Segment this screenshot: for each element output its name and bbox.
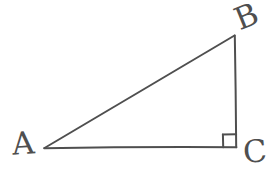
triangle-side-ac-horizontal-leg xyxy=(44,147,236,148)
vertex-label-c: C xyxy=(242,135,268,168)
diagram-canvas: A B C xyxy=(0,0,279,172)
triangle-side-ab-hypotenuse xyxy=(45,36,235,149)
triangle-side-bc-vertical-leg xyxy=(235,36,236,148)
right-angle-marker-icon xyxy=(223,134,236,147)
vertex-label-a: A xyxy=(11,127,35,159)
